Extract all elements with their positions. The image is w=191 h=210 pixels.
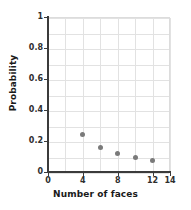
- data-point: [98, 145, 103, 150]
- gridline-horizontal: [48, 80, 169, 81]
- gridline-horizontal: [48, 127, 169, 128]
- gridline-horizontal: [48, 142, 169, 143]
- y-axis-line: [47, 16, 49, 173]
- y-axis-tick: [44, 141, 47, 142]
- y-axis-tick: [44, 172, 47, 173]
- y-axis-tick-label: 0.6: [17, 74, 43, 84]
- data-point: [80, 132, 85, 137]
- gridline-horizontal: [48, 18, 169, 19]
- data-point: [150, 158, 155, 163]
- y-axis-tick: [44, 79, 47, 80]
- gridline-horizontal: [48, 65, 169, 66]
- y-axis-tick-label: 0.8: [17, 43, 43, 53]
- y-axis-tick-label: 0.4: [17, 105, 43, 115]
- gridline-vertical: [170, 18, 171, 172]
- gridline-horizontal: [48, 96, 169, 97]
- x-axis-tick-label: 4: [73, 176, 93, 186]
- x-axis-tick-label: 0: [38, 176, 58, 186]
- y-axis-tick-label: 0: [17, 167, 43, 177]
- gridline-horizontal: [48, 34, 169, 35]
- gridline-horizontal: [48, 173, 169, 174]
- y-axis-tick: [44, 48, 47, 49]
- y-axis-tick: [44, 110, 47, 111]
- x-axis-tick-label: 8: [108, 176, 128, 186]
- x-axis-tick-label: 14: [160, 176, 180, 186]
- data-point: [115, 151, 120, 156]
- y-axis-tick: [44, 17, 47, 18]
- y-axis-tick-label: 1: [17, 12, 43, 22]
- scatter-chart: Number of faces Probability 048121400.20…: [0, 0, 191, 210]
- x-axis-label: Number of faces: [0, 189, 191, 199]
- data-point: [133, 155, 138, 160]
- gridline-horizontal: [48, 111, 169, 112]
- gridline-horizontal: [48, 49, 169, 50]
- plot-area: [48, 17, 170, 172]
- y-axis-tick-label: 0.2: [17, 136, 43, 146]
